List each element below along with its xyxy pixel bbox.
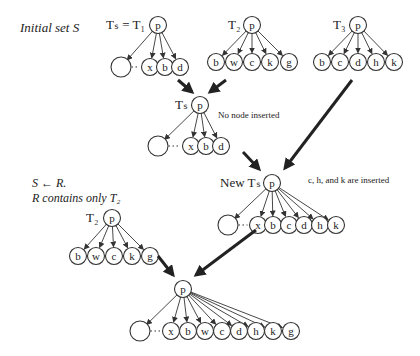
child-node xyxy=(218,215,238,235)
node-label: k xyxy=(333,219,339,231)
tree-edge xyxy=(100,225,109,247)
child-node: b xyxy=(314,54,331,71)
initial-set-label: Initial set S xyxy=(19,20,80,35)
node-label: p xyxy=(155,19,161,31)
node-label: p xyxy=(197,99,203,111)
tree-label-t2: T₂ xyxy=(228,17,240,32)
node-label: w xyxy=(201,325,209,337)
node-label: x xyxy=(188,140,194,152)
tree-label-t1: Tₛ = T₁ xyxy=(106,17,145,32)
tree-edge xyxy=(189,294,231,326)
child-node: d xyxy=(213,138,230,155)
node-label: d xyxy=(236,325,242,337)
tree-edge xyxy=(203,112,216,138)
tree-edge xyxy=(278,187,328,220)
node-label: b xyxy=(203,140,209,152)
tree-edge xyxy=(184,297,187,322)
child-node: x xyxy=(163,323,180,340)
child-node: k xyxy=(262,54,279,71)
tree-label-t3: T₃ xyxy=(333,17,345,32)
child-node: g xyxy=(142,248,159,265)
tree-t2: pbwckg xyxy=(208,17,298,71)
node-label: c xyxy=(220,325,225,337)
node-label: c xyxy=(338,56,343,68)
root-node: p xyxy=(150,17,167,34)
tree-edge xyxy=(147,294,178,324)
child-node: d xyxy=(296,217,313,234)
child-node: x xyxy=(183,138,200,155)
node-label: b xyxy=(75,250,81,262)
child-node: h xyxy=(312,217,329,234)
child-node: b xyxy=(157,59,174,76)
node-label: p xyxy=(109,212,115,224)
tree-edge xyxy=(193,112,198,136)
child-node: c xyxy=(106,248,123,265)
tree-edge xyxy=(272,191,273,216)
assignment-label: S ← R. xyxy=(32,176,66,190)
child-node: k xyxy=(265,323,282,340)
node-label: k xyxy=(267,56,273,68)
node-label: p xyxy=(180,283,186,295)
flow-arrow-ts-to-new-ts xyxy=(243,152,259,169)
flow-arrow-t1-to-ts xyxy=(178,80,192,92)
node-label: p xyxy=(355,19,361,31)
tree-edge xyxy=(174,296,181,322)
tree-edge xyxy=(162,32,176,59)
child-node: g xyxy=(283,323,300,340)
child-node: b xyxy=(198,138,215,155)
node-label: d xyxy=(218,140,224,152)
no-node-inserted-label: No node inserted xyxy=(218,110,280,120)
child-node: k xyxy=(328,217,345,234)
child-node: h xyxy=(248,323,265,340)
flow-arrow-t2-to-ts xyxy=(210,80,226,92)
tree-edge xyxy=(361,32,371,54)
node-label: w xyxy=(92,250,100,262)
child-node: w xyxy=(197,323,214,340)
node-label: k xyxy=(129,250,135,262)
child-node: c xyxy=(332,54,349,71)
node-label: g xyxy=(288,325,294,337)
child-node: x xyxy=(142,59,159,76)
root-node: p xyxy=(104,210,121,227)
child-node: b xyxy=(265,217,282,234)
tree-edge xyxy=(344,32,354,54)
child-node: w xyxy=(226,54,243,71)
node-label: h xyxy=(373,56,379,68)
node-label: p xyxy=(249,19,255,31)
node-label: x xyxy=(168,325,174,337)
tree-merge-diagram: Initial set S S ← R. R contains only T₂ … xyxy=(0,0,420,356)
r-contains-label: R contains only T₂ xyxy=(31,191,121,205)
node-label: g xyxy=(286,56,292,68)
node-label: d xyxy=(177,61,183,73)
child-node: h xyxy=(368,54,385,71)
child-node: k xyxy=(124,248,141,265)
tree-final: pxbwcdhkg xyxy=(130,281,300,342)
child-node: k xyxy=(386,54,403,71)
node-label: x xyxy=(255,219,261,231)
child-node: d xyxy=(172,59,189,76)
tree-edge xyxy=(261,190,270,216)
child-node: w xyxy=(88,248,105,265)
node-label: b xyxy=(162,61,168,73)
flow-arrow-t2-to-final xyxy=(158,256,173,275)
child-node: b xyxy=(180,323,197,340)
root-node: p xyxy=(350,17,367,34)
node-label: k xyxy=(270,325,276,337)
root-node: p xyxy=(192,97,209,114)
node-label: b xyxy=(213,56,219,68)
tree-edge xyxy=(152,33,157,58)
child-node xyxy=(130,321,150,341)
child-node: g xyxy=(281,54,298,71)
tree-edge xyxy=(238,32,248,54)
child-node: d xyxy=(350,54,367,71)
tree-edge xyxy=(84,224,107,249)
node-label: h xyxy=(253,325,259,337)
node-label: p xyxy=(269,177,275,189)
tree-edge xyxy=(188,295,215,324)
node-label: b xyxy=(319,56,325,68)
child-node: b xyxy=(70,248,87,265)
tree-edge xyxy=(255,32,265,54)
node-label: k xyxy=(391,56,397,68)
flow-arrow-t3-to-new-ts xyxy=(285,80,352,168)
node-label: b xyxy=(270,219,276,231)
